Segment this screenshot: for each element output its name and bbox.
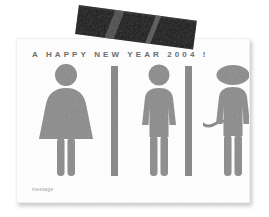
card-surface: A HAPPY NEW YEAR 2004 !: [17, 39, 249, 202]
monkey-pictogram: [203, 63, 249, 178]
pictogram-row: [17, 63, 249, 178]
divider-bar-1: [111, 66, 118, 176]
greeting-card-scene: A HAPPY NEW YEAR 2004 !: [0, 0, 269, 217]
greeting-card: A HAPPY NEW YEAR 2004 !: [16, 38, 250, 203]
man-pictogram: [131, 63, 187, 178]
divider-bar-2: [185, 66, 192, 176]
woman-pictogram: [35, 63, 97, 178]
message-label: message: [32, 187, 53, 192]
greeting-headline: A HAPPY NEW YEAR 2004 !: [32, 50, 240, 60]
